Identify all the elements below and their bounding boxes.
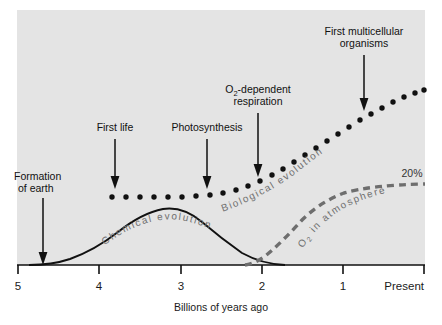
formation-of-earth-label-line2: of earth (18, 182, 54, 194)
x-tick-label-present: Present (384, 280, 424, 292)
x-tick-label-5: 5 (15, 280, 21, 292)
formation-of-earth-label-line1: Formation (14, 170, 61, 182)
first-life-label: First life (97, 121, 134, 133)
evolution-timeline-figure: 5 4 3 2 1 Present Billions of years ago (0, 0, 442, 325)
x-tick-label-4: 4 (96, 280, 103, 292)
x-tick-label-2: 2 (259, 280, 265, 292)
photosynthesis-label: Photosynthesis (171, 121, 242, 133)
multicellular-label-line2: organisms (340, 37, 388, 49)
x-tick-label-1: 1 (340, 280, 346, 292)
o2-respiration-label-line2: respiration (233, 95, 282, 107)
x-axis-title: Billions of years ago (174, 301, 268, 313)
percent-20-label: 20% (401, 167, 422, 179)
x-tick-label-3: 3 (178, 280, 184, 292)
multicellular-label-line1: First multicellular (325, 25, 404, 37)
